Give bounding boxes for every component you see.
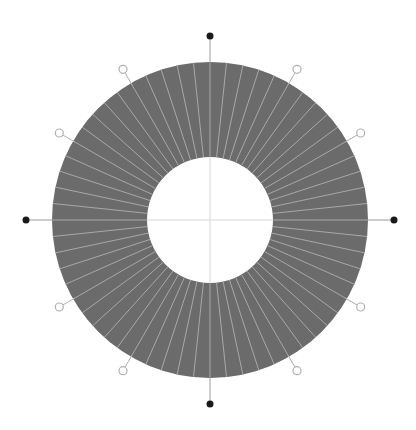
filled-dot-icon bbox=[207, 401, 214, 408]
minor-marker-stem bbox=[288, 73, 295, 85]
hollow-circle-icon bbox=[293, 65, 301, 73]
minor-marker-stem bbox=[345, 298, 357, 305]
minor-marker-stem bbox=[288, 355, 295, 367]
hollow-circle-icon bbox=[357, 303, 365, 311]
dial-svg bbox=[0, 0, 416, 430]
hollow-circle-icon bbox=[55, 303, 63, 311]
filled-dot-icon bbox=[23, 217, 30, 224]
minor-marker-stem bbox=[345, 135, 357, 142]
ring-dial-diagram bbox=[0, 0, 416, 430]
hollow-circle-icon bbox=[357, 129, 365, 137]
center-crosshair bbox=[147, 157, 273, 283]
filled-dot-icon bbox=[391, 217, 398, 224]
hollow-circle-icon bbox=[293, 367, 301, 375]
minor-marker-stem bbox=[63, 298, 75, 305]
minor-marker-stem bbox=[125, 73, 132, 85]
hollow-circle-icon bbox=[119, 367, 127, 375]
minor-marker-stem bbox=[63, 135, 75, 142]
filled-dot-icon bbox=[207, 33, 214, 40]
hollow-circle-icon bbox=[55, 129, 63, 137]
hollow-circle-icon bbox=[119, 65, 127, 73]
minor-marker-stem bbox=[125, 355, 132, 367]
